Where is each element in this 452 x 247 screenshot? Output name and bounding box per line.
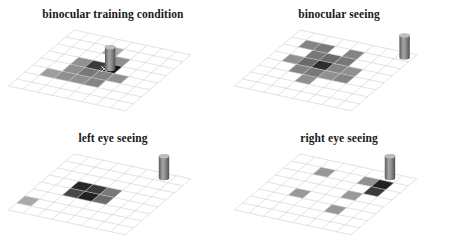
panel-title: left eye seeing	[0, 132, 226, 145]
landmark-cylinder	[159, 154, 169, 180]
heatmap-cells	[17, 181, 123, 206]
grid-line	[234, 154, 300, 210]
heatmap-cell	[17, 196, 40, 206]
landmark-cylinder	[399, 33, 409, 59]
heatmap-cell	[288, 188, 311, 198]
panel-plot	[0, 146, 226, 246]
heatmap-cell	[340, 191, 363, 201]
heatmap-cell	[313, 167, 336, 177]
panel-left-eye-seeing: left eye seeing	[0, 124, 226, 247]
heatmap-svg-3	[226, 146, 452, 246]
cylinder-top	[105, 45, 115, 49]
heatmap-cells	[282, 40, 365, 84]
panel-title: binocular training condition	[0, 8, 226, 21]
cylinder-top	[385, 154, 395, 158]
panel-plot	[226, 146, 452, 246]
grid-lines	[234, 30, 416, 111]
heatmap-cell	[324, 205, 347, 215]
grid-line	[111, 176, 177, 232]
grid-line	[351, 55, 417, 111]
grid-line	[8, 154, 74, 210]
panel-right-eye-seeing: right eye seeing	[226, 124, 452, 247]
landmark-cylinder	[105, 45, 115, 71]
panel-title: binocular seeing	[226, 8, 452, 21]
panel-plot	[226, 22, 452, 122]
heatmap-svg-1	[226, 22, 452, 122]
cylinder-top	[399, 33, 409, 37]
landmark-cylinder	[385, 154, 395, 180]
panel-plot	[0, 22, 226, 122]
panel-binocular-training-condition: binocular training condition	[0, 0, 226, 123]
grid-line	[125, 55, 191, 111]
heatmap-cells	[39, 46, 130, 87]
grid-line	[322, 173, 388, 229]
panel-binocular-seeing: binocular seeing	[226, 0, 452, 123]
grid-lines	[8, 30, 190, 111]
grid-line	[249, 157, 315, 213]
cylinder-top	[159, 154, 169, 158]
grid-line	[264, 160, 330, 216]
panel-title: right eye seeing	[226, 132, 452, 145]
heatmap-svg-2	[0, 146, 226, 246]
heatmap-svg-0	[0, 22, 226, 122]
grid-line	[125, 179, 191, 235]
grid-line	[307, 170, 373, 226]
figure-root: binocular training condition binocular s…	[0, 0, 452, 247]
